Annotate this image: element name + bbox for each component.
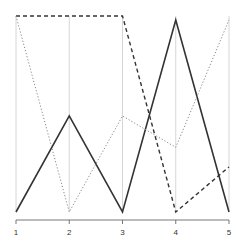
x-tick-label: 5 (227, 228, 232, 237)
x-tick-label: 2 (67, 228, 72, 237)
parallel-coordinates-chart: 12345 (0, 0, 243, 251)
x-tick-label: 4 (174, 228, 179, 237)
x-axis: 12345 (14, 220, 232, 237)
axis-vertical-lines (16, 16, 229, 212)
x-tick-label: 3 (120, 228, 125, 237)
x-tick-label: 1 (14, 228, 19, 237)
